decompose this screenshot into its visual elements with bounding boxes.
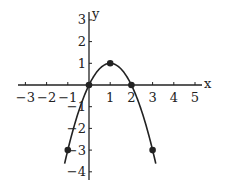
data-point [86, 82, 93, 89]
x-axis-label: x [204, 76, 212, 91]
x-tick-label: 4 [170, 90, 178, 105]
x-tick-label: −3 [16, 90, 35, 105]
x-tick-label: 5 [191, 90, 199, 105]
data-point [107, 60, 114, 67]
y-axis-label: y [91, 6, 100, 21]
graph: −3−2−112345−4−3−2−1123 x y [0, 0, 226, 190]
y-tick-label: −1 [67, 99, 86, 114]
y-tick-label: 3 [78, 12, 86, 27]
data-point [65, 147, 72, 154]
tick-labels: −3−2−112345−4−3−2−1123 [16, 12, 199, 179]
x-tick-label: 1 [106, 90, 114, 105]
y-tick-label: 1 [78, 56, 86, 71]
data-point [149, 147, 156, 154]
y-tick-label: −4 [67, 164, 86, 179]
x-tick-label: −2 [37, 90, 56, 105]
y-tick-label: −2 [67, 121, 86, 136]
y-tick-label: 2 [78, 34, 86, 49]
data-point [128, 82, 135, 89]
x-tick-label: 3 [148, 90, 156, 105]
